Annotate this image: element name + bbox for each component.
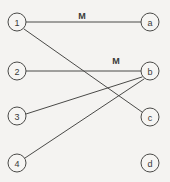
nodes-group: 1234abcd (8, 13, 159, 172)
bipartite-graph-diagram: 1234abcd MM (0, 0, 170, 182)
node-label-3: 3 (14, 112, 19, 122)
node-label-4: 4 (14, 159, 19, 169)
graph-node-2: 2 (8, 62, 26, 80)
node-label-1: 1 (14, 18, 19, 28)
node-label-c: c (148, 113, 153, 123)
graph-node-a: a (141, 13, 159, 31)
node-label-b: b (147, 67, 152, 77)
node-label-2: 2 (14, 67, 19, 77)
graph-edge-4-b (25, 79, 144, 158)
node-label-d: d (147, 159, 152, 169)
label-m-middle: M (112, 56, 120, 66)
graph-node-3: 3 (8, 107, 26, 125)
label-m-top: M (78, 11, 86, 21)
graph-edge-3-b (26, 77, 142, 114)
edges-group (24, 22, 144, 158)
graph-node-1: 1 (8, 13, 26, 31)
graph-canvas: 1234abcd MM (0, 0, 170, 182)
graph-node-b: b (141, 62, 159, 80)
node-label-a: a (147, 18, 152, 28)
graph-node-4: 4 (8, 154, 26, 172)
graph-node-c: c (141, 108, 159, 126)
graph-node-d: d (141, 154, 159, 172)
edge-labels-group: MM (78, 11, 120, 66)
